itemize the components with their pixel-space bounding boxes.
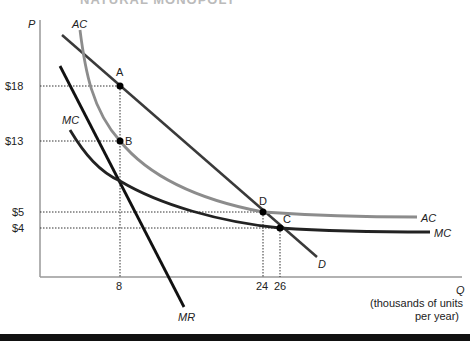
mc-left-label: MC (62, 114, 79, 126)
y-tick-18: $18 (5, 80, 23, 92)
point-a-label: A (116, 66, 124, 78)
mr-end-label: MR (178, 311, 195, 323)
marginal-revenue-curve (60, 66, 184, 307)
ac-right-label: AC (420, 212, 436, 224)
x-axis-note-line1: (thousands of units (370, 297, 463, 309)
demand-end-label: D (318, 258, 326, 270)
point-c (277, 225, 284, 232)
x-tick-24: 24 (256, 280, 268, 292)
x-axis-note-line2: per year) (415, 310, 459, 322)
average-cost-curve (80, 30, 417, 217)
mc-right-label: MC (434, 227, 451, 239)
y-axis-label: P (28, 18, 36, 30)
x-tick-8: 8 (116, 280, 122, 292)
bottom-rule (0, 334, 470, 341)
y-tick-13: $13 (5, 135, 23, 147)
point-b (117, 138, 124, 145)
point-b-label: B (125, 135, 132, 147)
x-axis-label: Q (456, 284, 465, 296)
x-tick-26: 26 (274, 280, 286, 292)
point-d (260, 209, 267, 216)
point-c-label: C (283, 213, 291, 225)
ac-top-label: AC (71, 18, 87, 30)
point-a (117, 83, 124, 90)
point-d-label: D (259, 195, 267, 207)
y-tick-5: $5 (12, 206, 24, 218)
natural-monopoly-chart: P AC MC $18 $13 $5 $4 A B D C AC MC D MR… (0, 0, 476, 346)
y-tick-4: $4 (12, 222, 24, 234)
